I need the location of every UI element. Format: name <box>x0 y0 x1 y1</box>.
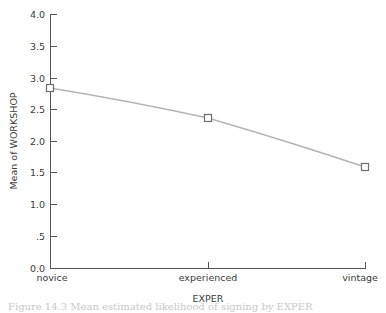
figure-caption: Figure 14.3 Mean estimated likelihood of… <box>8 303 313 312</box>
x-tick-label-novice: novice <box>36 272 67 283</box>
line-chart-svg: 4.0 3.5 3.0 2.5 2.0 1.5 1.0 .5 0.0 novic… <box>0 0 386 313</box>
y-tick-label: 2.0 <box>30 136 45 147</box>
y-tick-label: 4.0 <box>30 9 45 20</box>
x-tick-label-vintage: vintage <box>342 272 378 283</box>
chart-background <box>0 0 386 313</box>
y-axis-title: Mean of WORKSHOP <box>8 92 19 189</box>
data-point-vintage <box>362 164 369 171</box>
y-tick-label: 2.5 <box>30 104 45 115</box>
chart-figure: 4.0 3.5 3.0 2.5 2.0 1.5 1.0 .5 0.0 novic… <box>0 0 386 313</box>
figure-caption-clip: Figure 14.3 Mean estimated likelihood of… <box>0 303 386 313</box>
y-tick-label: 1.5 <box>30 167 45 178</box>
y-tick-label: 3.5 <box>30 41 45 52</box>
y-tick-label: 1.0 <box>30 199 45 210</box>
data-point-novice <box>47 85 54 92</box>
x-tick-label-experienced: experienced <box>179 272 238 283</box>
y-tick-label: .5 <box>36 231 45 242</box>
data-point-experienced <box>205 115 212 122</box>
y-tick-label: 3.0 <box>30 73 45 84</box>
